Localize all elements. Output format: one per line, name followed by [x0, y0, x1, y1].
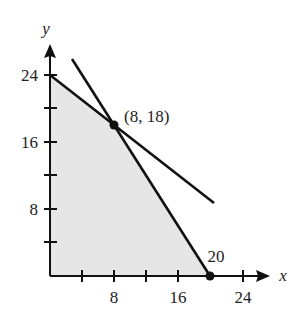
tick-label-y-8: 8: [30, 200, 39, 219]
intersection-point: [110, 121, 119, 130]
x-axis-arrow-icon: [256, 270, 270, 282]
shaded-region: [50, 75, 210, 276]
y-axis-arrow-icon: [44, 44, 56, 58]
tick-label-y-24: 24: [21, 66, 39, 85]
tick-label-x-8: 8: [110, 288, 119, 307]
tick-label-x-16: 16: [170, 288, 187, 307]
intersection-label: (8, 18): [124, 107, 169, 126]
x-intercept-point: [206, 272, 215, 281]
chart: y x 24 16 8 8 16 24 (8, 18) 20: [0, 0, 302, 318]
tick-label-y-16: 16: [21, 133, 38, 152]
tick-label-x-24: 24: [235, 288, 253, 307]
y-axis-label: y: [40, 19, 50, 38]
x-axis-label: x: [278, 266, 287, 285]
x-intercept-label: 20: [208, 247, 225, 266]
